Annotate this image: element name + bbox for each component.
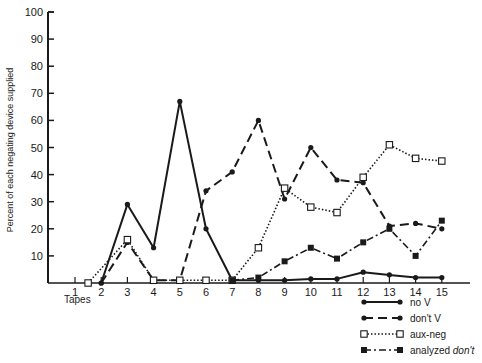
data-point <box>439 275 444 280</box>
data-point <box>334 276 339 281</box>
data-point <box>439 158 445 164</box>
data-point <box>386 142 392 148</box>
x-tick-label: 12 <box>357 286 369 298</box>
data-point <box>412 155 418 161</box>
y-tick-label: 100 <box>25 6 43 18</box>
legend-marker <box>361 347 367 353</box>
data-point <box>282 196 287 201</box>
data-point <box>334 256 340 262</box>
legend-marker <box>397 347 403 353</box>
x-tick-label: 10 <box>305 286 317 298</box>
x-tick-label: 6 <box>203 286 209 298</box>
x-tick-label: 2 <box>98 286 104 298</box>
data-point <box>177 99 182 104</box>
legend-marker <box>397 331 403 337</box>
legend-marker <box>397 299 402 304</box>
data-point <box>308 276 313 281</box>
data-point <box>413 253 419 259</box>
data-point <box>125 202 130 207</box>
y-tick-label: 30 <box>31 196 43 208</box>
data-point <box>361 270 366 275</box>
y-tick-label: 70 <box>31 87 43 99</box>
line-chart: 102030405060708090100 123456789101112131… <box>0 0 482 363</box>
y-axis-title: Percent of each negating device supplied <box>5 68 15 233</box>
data-point <box>308 204 314 210</box>
y-axis: 102030405060708090100 <box>25 6 54 283</box>
data-point <box>308 145 313 150</box>
legend-item-aux-neg: aux-neg <box>361 329 446 340</box>
data-point <box>150 277 156 283</box>
data-point <box>124 236 130 242</box>
data-point <box>255 245 261 251</box>
legend-label: don't V <box>410 313 441 324</box>
data-point <box>255 275 261 281</box>
data-point <box>151 245 156 250</box>
data-point <box>203 277 209 283</box>
data-point <box>413 275 418 280</box>
y-tick-label: 40 <box>31 169 43 181</box>
legend-label: no V <box>410 297 431 308</box>
series-layer <box>85 99 445 286</box>
data-point <box>334 209 340 215</box>
legend-label: aux-neg <box>410 329 446 340</box>
legend-marker <box>361 299 366 304</box>
x-tick-label: 7 <box>229 286 235 298</box>
data-point <box>360 239 366 245</box>
data-point <box>177 277 183 283</box>
data-point <box>413 221 418 226</box>
data-point <box>439 226 444 231</box>
x-tick-label: 11 <box>331 286 342 298</box>
x-tick-label: 4 <box>151 286 157 298</box>
x-tick-label: 5 <box>177 286 183 298</box>
y-tick-label: 10 <box>31 250 43 262</box>
legend-marker <box>397 315 402 320</box>
data-point <box>386 226 392 232</box>
data-point <box>387 272 392 277</box>
data-point <box>308 245 314 251</box>
data-point <box>230 169 235 174</box>
x-tick-label: 3 <box>124 286 130 298</box>
data-point <box>334 177 339 182</box>
data-point <box>85 280 91 286</box>
data-point <box>281 185 287 191</box>
series-no-v <box>99 99 445 286</box>
legend-marker <box>361 331 367 337</box>
data-point <box>229 277 235 283</box>
data-point <box>282 278 287 283</box>
x-tick-label: 13 <box>383 286 395 298</box>
legend-item-don-t-v: don't V <box>361 313 441 324</box>
data-point <box>360 174 366 180</box>
y-tick-label: 90 <box>31 33 43 45</box>
legend-item-no-v: no V <box>361 297 431 308</box>
y-tick-label: 80 <box>31 60 43 72</box>
data-point <box>256 118 261 123</box>
data-point <box>203 226 208 231</box>
x-tick-label: 15 <box>436 286 448 298</box>
y-tick-label: 60 <box>31 114 43 126</box>
legend-marker <box>361 315 366 320</box>
legend-item-analyzed-don-t: analyzed don't <box>361 345 475 356</box>
legend: no Vdon't Vaux-neganalyzed don't <box>361 297 476 356</box>
legend-label: analyzed don't <box>410 345 475 356</box>
x-axis-title: Tapes <box>64 294 91 305</box>
x-tick-label: 8 <box>255 286 261 298</box>
y-tick-label: 20 <box>31 223 43 235</box>
series-aux-neg <box>85 142 445 287</box>
data-point <box>99 280 104 285</box>
data-point <box>203 188 208 193</box>
x-tick-label: 9 <box>282 286 288 298</box>
data-point <box>282 258 288 264</box>
y-tick-label: 50 <box>31 142 43 154</box>
data-point <box>439 218 445 224</box>
